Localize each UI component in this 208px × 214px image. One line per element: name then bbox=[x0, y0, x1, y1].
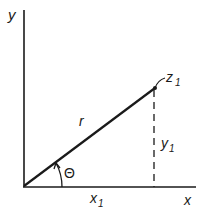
point-label-subscript: 1 bbox=[175, 77, 181, 88]
y-projection-label-subscript: 1 bbox=[169, 143, 175, 154]
point-label: z bbox=[165, 69, 173, 85]
diagram-svg: y x r Θ z 1 x 1 y 1 bbox=[0, 0, 208, 214]
y-projection-label: y bbox=[160, 135, 169, 151]
radius-vector bbox=[24, 88, 155, 186]
angle-label: Θ bbox=[64, 165, 75, 181]
radius-label: r bbox=[79, 113, 85, 129]
point-leader-line bbox=[155, 78, 165, 88]
x-axis-label: x bbox=[183, 192, 192, 208]
polar-coordinate-diagram: y x r Θ z 1 x 1 y 1 bbox=[0, 0, 208, 214]
y-axis-label: y bbox=[7, 6, 17, 23]
x-projection-label-subscript: 1 bbox=[98, 198, 104, 209]
x-projection-label: x bbox=[89, 190, 98, 206]
